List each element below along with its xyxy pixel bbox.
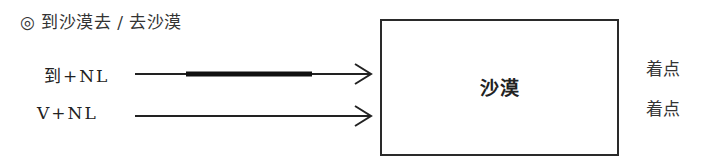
note-endpoint-2: 着点 <box>646 95 680 120</box>
desert-box-label: 沙漠 <box>382 73 617 100</box>
desert-box: 沙漠 <box>380 19 619 156</box>
arrow-v-nl <box>135 106 371 126</box>
arrow-dao-nl <box>135 64 371 84</box>
note-endpoint-1: 着点 <box>646 55 680 80</box>
